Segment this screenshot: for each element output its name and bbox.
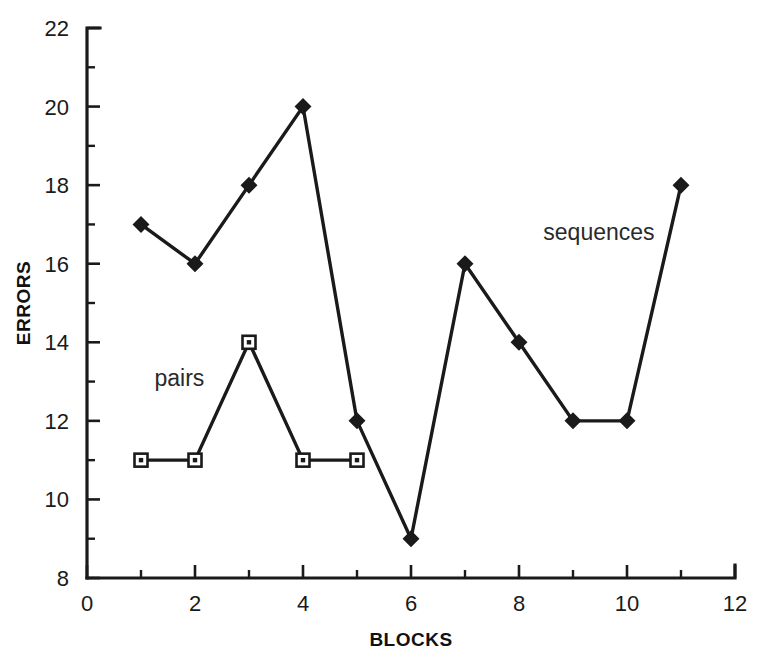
- y-axis-title: ERRORS: [13, 261, 34, 345]
- x-tick-label-0: 0: [81, 591, 93, 616]
- y-tick-label-20: 20: [45, 95, 69, 120]
- y-tick-label-22: 22: [45, 16, 69, 41]
- y-tick-label-12: 12: [45, 409, 69, 434]
- y-axis-tick-labels: 810121416182022: [45, 16, 69, 591]
- marker-sequences-block-6: [404, 531, 419, 546]
- series-line-pairs: [141, 342, 357, 460]
- x-tick-label-10: 10: [615, 591, 639, 616]
- y-tick-label-8: 8: [57, 566, 69, 591]
- x-tick-label-4: 4: [297, 591, 309, 616]
- marker-dot-pairs-block-1: [139, 458, 143, 462]
- y-tick-label-10: 10: [45, 487, 69, 512]
- marker-dot-pairs-block-2: [193, 458, 197, 462]
- x-tick-label-8: 8: [513, 591, 525, 616]
- marker-sequences-block-10: [620, 413, 635, 428]
- series-lines-group: [141, 107, 681, 539]
- marker-sequences-block-5: [350, 413, 365, 428]
- marker-sequences-block-11: [674, 178, 689, 193]
- x-tick-label-2: 2: [189, 591, 201, 616]
- x-tick-label-6: 6: [405, 591, 417, 616]
- marker-dot-pairs-block-5: [355, 458, 359, 462]
- chart-figure: 810121416182022 024681012 ERRORS BLOCKS …: [0, 0, 762, 655]
- y-tick-label-14: 14: [45, 330, 69, 355]
- y-axis-ticks: [87, 28, 100, 578]
- marker-dot-pairs-block-3: [247, 340, 251, 344]
- x-axis-tick-labels: 024681012: [81, 591, 747, 616]
- line-chart-canvas: 810121416182022 024681012 ERRORS BLOCKS …: [0, 0, 762, 655]
- axes-group: 810121416182022 024681012: [45, 16, 748, 616]
- x-axis-title: BLOCKS: [369, 629, 452, 650]
- x-tick-label-12: 12: [723, 591, 747, 616]
- series-markers-group: [134, 99, 689, 546]
- y-tick-label-16: 16: [45, 252, 69, 277]
- series-line-sequences: [141, 107, 681, 539]
- series-annotation-sequences: sequences: [543, 219, 654, 245]
- marker-dot-pairs-block-4: [301, 458, 305, 462]
- series-annotation-pairs: pairs: [155, 365, 205, 391]
- series-annotations-group: sequencespairs: [155, 219, 655, 390]
- x-axis-ticks: [87, 565, 735, 578]
- y-tick-label-18: 18: [45, 173, 69, 198]
